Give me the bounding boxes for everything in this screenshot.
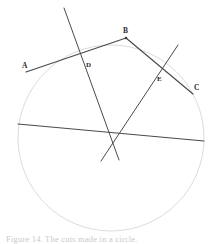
figure-container: A B C D E Figure 14. The cuts made in a …	[0, 0, 212, 244]
vertex-label-c: C	[194, 84, 199, 92]
diagram-background	[0, 0, 212, 244]
vertex-label-b: B	[123, 27, 128, 35]
vertex-label-a: A	[22, 62, 27, 70]
figure-caption: Figure 14. The cuts made in a circle.	[6, 235, 138, 244]
vertex-label-e: E	[157, 76, 162, 83]
geometry-diagram	[0, 0, 212, 244]
vertex-dot-b	[125, 37, 128, 40]
figure-caption-strip: Figure 14. The cuts made in a circle.	[0, 235, 212, 244]
vertex-label-d: D	[86, 62, 91, 69]
